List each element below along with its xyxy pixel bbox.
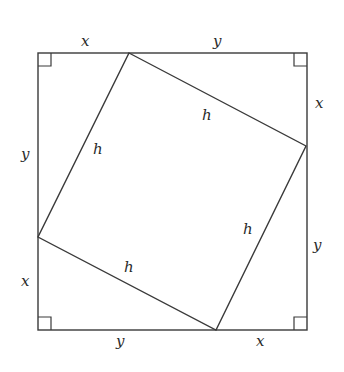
label-left-bottom-x: x (21, 272, 30, 290)
label-bottom-right-x: x (256, 332, 265, 350)
label-right-top-x: x (315, 94, 324, 112)
right-angle-marker-top-left (38, 53, 51, 66)
label-top-right-y: y (212, 32, 222, 50)
label-bottom-left-y: y (115, 332, 125, 350)
right-angle-marker-bottom-left (38, 317, 51, 330)
label-top-left-x: x (81, 32, 90, 50)
outer-square (38, 53, 307, 330)
label-left-top-y: y (20, 145, 30, 163)
right-angle-marker-bottom-right (294, 317, 307, 330)
label-hyp-left-h: h (93, 140, 103, 158)
label-hyp-top-h: h (202, 106, 212, 124)
right-angle-marker-top-right (294, 53, 307, 66)
label-right-bottom-y: y (312, 236, 322, 254)
label-hyp-right-h: h (243, 220, 253, 238)
label-hyp-bottom-h: h (124, 258, 134, 276)
inner-square (38, 53, 306, 330)
pythagorean-diagram: x y x y x y x y h h h h (0, 0, 344, 372)
